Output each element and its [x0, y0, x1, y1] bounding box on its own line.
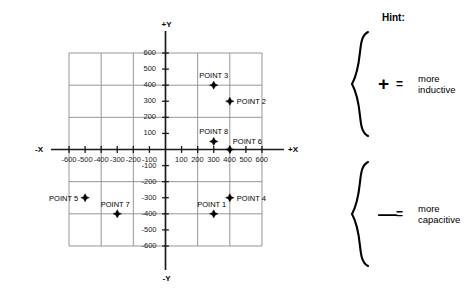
- y-tick-label: -600: [142, 241, 157, 250]
- hint-description-line2: inductive: [418, 84, 456, 95]
- y-tick-label: -300: [142, 193, 157, 202]
- data-point-marker: [81, 194, 89, 202]
- data-point-marker: [226, 146, 234, 154]
- data-point-marker: [210, 81, 218, 89]
- data-point-label: POINT 3: [199, 71, 228, 80]
- data-point-label: POINT 4: [237, 194, 266, 203]
- data-point-label: POINT 6: [233, 137, 262, 146]
- brace-path: [352, 32, 368, 136]
- y-tick-label: -100: [142, 161, 157, 170]
- hint-description-line1: more: [418, 73, 456, 84]
- scatter-chart: -600-500-400-300-200-1001002003004005006…: [0, 0, 330, 298]
- data-point-marker: [113, 210, 121, 218]
- x-tick-label: -400: [94, 155, 109, 164]
- y-tick-label: 100: [144, 128, 157, 137]
- hint-row: —=morecapacitive: [330, 160, 474, 268]
- data-point-label: POINT 8: [199, 127, 228, 136]
- equals-sign: =: [396, 78, 403, 90]
- x-tick-label: 500: [239, 155, 252, 164]
- y-tick-label: 200: [144, 112, 157, 121]
- x-tick-label: 600: [255, 155, 268, 164]
- hint-description: morecapacitive: [418, 203, 460, 225]
- hint-description-line1: more: [418, 203, 460, 214]
- data-point-marker: [210, 137, 218, 145]
- x-tick-label: -600: [62, 155, 77, 164]
- brace-path: [352, 162, 368, 266]
- hint-row: +=moreinductive: [330, 30, 474, 138]
- equals-sign: =: [396, 208, 403, 220]
- axis-label-positive-y: +Y: [162, 20, 172, 29]
- axis-label-negative-y: -Y: [163, 274, 171, 283]
- hint-panel: Hint: +=moreinductive—=morecapacitive: [330, 0, 474, 298]
- x-tick-label: 200: [191, 155, 204, 164]
- data-point-marker: [226, 194, 234, 202]
- axes: [51, 31, 284, 270]
- y-tick-label: -500: [142, 225, 157, 234]
- minus-sign: —: [378, 204, 397, 223]
- hint-title: Hint:: [382, 12, 405, 23]
- y-tick-label: 300: [144, 96, 157, 105]
- figure-root: -600-500-400-300-200-1001002003004005006…: [0, 0, 474, 298]
- chart-canvas: [0, 0, 330, 298]
- curly-brace-icon: [348, 160, 374, 268]
- x-tick-label: -300: [110, 155, 125, 164]
- data-point-marker: [210, 210, 218, 218]
- x-tick-label: -500: [78, 155, 93, 164]
- x-tick-label: 400: [223, 155, 236, 164]
- y-tick-label: 400: [144, 80, 157, 89]
- axis-label-positive-x: +X: [288, 145, 298, 154]
- x-tick-label: 100: [175, 155, 188, 164]
- data-point-marker: [226, 97, 234, 105]
- x-tick-label: 300: [207, 155, 220, 164]
- data-point-label: POINT 2: [237, 97, 266, 106]
- hint-description: moreinductive: [418, 73, 456, 95]
- data-point-label: POINT 5: [49, 194, 78, 203]
- curly-brace-icon: [348, 30, 374, 138]
- x-tick-label: -200: [126, 155, 141, 164]
- y-tick-label: -400: [142, 209, 157, 218]
- y-tick-label: 600: [144, 48, 157, 57]
- hint-description-line2: capacitive: [418, 214, 460, 225]
- y-tick-label: -200: [142, 177, 157, 186]
- axis-label-negative-x: -X: [35, 145, 43, 154]
- plus-sign: +: [378, 74, 389, 93]
- y-tick-label: 500: [144, 64, 157, 73]
- data-point-label: POINT 7: [101, 200, 130, 209]
- data-point-label: POINT 1: [197, 200, 226, 209]
